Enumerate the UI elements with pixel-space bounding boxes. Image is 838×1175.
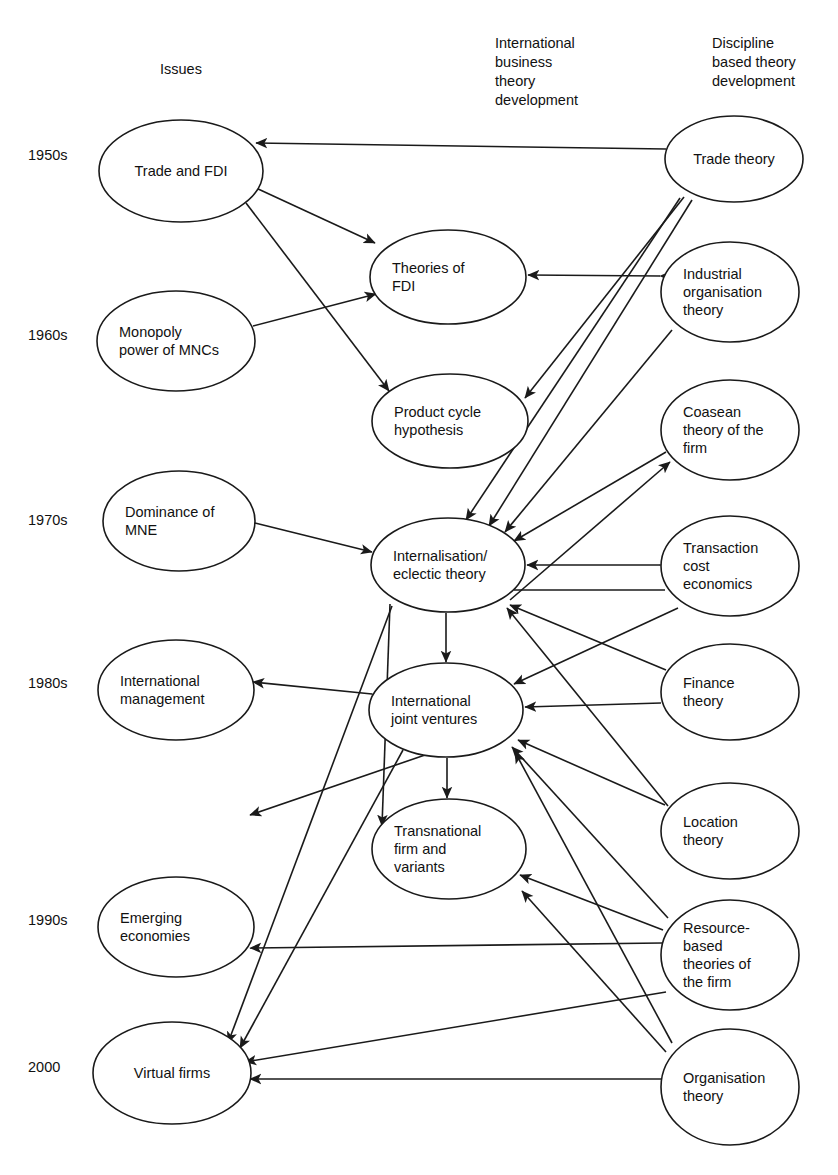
node-international-management[interactable]: Internationalmanagement (98, 640, 254, 740)
node-internalisation-eclectic-theory[interactable]: Internalisation/eclectic theory (371, 518, 525, 612)
node-emerging-economies[interactable]: Emergingeconomies (98, 877, 254, 977)
node-theories-of-fdi[interactable]: Theories ofFDI (370, 230, 526, 324)
edge-ijv-to-international-management-lower (250, 755, 425, 815)
node-shape-emerging-economies (98, 877, 254, 977)
node-shape-transaction-cost-economics (661, 516, 799, 616)
node-shape-international-management (98, 640, 254, 740)
node-label-transaction-cost-economics: economics (683, 576, 752, 592)
node-trade-and-fdi[interactable]: Trade and FDI (99, 120, 263, 222)
node-label-coasean-theory-of-the-firm: firm (683, 440, 707, 456)
node-label-virtual-firms: Virtual firms (134, 1065, 210, 1081)
node-label-emerging-economies: economies (120, 928, 190, 944)
era-label-2000: 2000 (28, 1059, 60, 1075)
edge-finance-theory-to-ijv (525, 703, 661, 707)
edge-monopoly-power-to-theories-of-fdi (253, 294, 376, 326)
node-label-transnational-firm-and-variants: Transnational (394, 823, 481, 839)
node-dominance-of-mne[interactable]: Dominance ofMNE (103, 471, 255, 571)
column-heading-discipline-theory: Discipline (712, 35, 774, 51)
edge-trade-theory-to-trade-and-fdi (256, 143, 666, 149)
node-label-dominance-of-mne: Dominance of (125, 504, 215, 520)
node-product-cycle-hypothesis[interactable]: Product cyclehypothesis (372, 374, 528, 468)
node-label-coasean-theory-of-the-firm: Coasean (683, 404, 741, 420)
node-transnational-firm-and-variants[interactable]: Transnationalfirm andvariants (372, 799, 526, 899)
era-axis: 1950s1960s1970s1980s1990s2000 (28, 147, 68, 1075)
node-international-joint-ventures[interactable]: Internationaljoint ventures (369, 663, 523, 757)
node-location-theory[interactable]: Locationtheory (661, 783, 799, 879)
node-label-international-joint-ventures: International (391, 693, 471, 709)
era-label-1980s: 1980s (28, 675, 68, 691)
node-shape-dominance-of-mne (103, 471, 255, 571)
column-heading-ib-theory: business (495, 54, 552, 70)
column-heading-ib-theory: International (495, 35, 575, 51)
node-label-transnational-firm-and-variants: variants (394, 859, 445, 875)
node-label-theories-of-fdi: Theories of (392, 260, 466, 276)
column-headings: IssuesInternationalbusinesstheorydevelop… (160, 35, 797, 108)
node-label-resource-based-theories-of-the-firm: the firm (683, 974, 731, 990)
node-label-industrial-organisation-theory: theory (683, 302, 724, 318)
node-label-product-cycle-hypothesis: Product cycle (394, 404, 481, 420)
node-label-international-management: International (120, 673, 200, 689)
column-heading-ib-theory: development (495, 92, 578, 108)
node-resource-based-theories-of-the-firm[interactable]: Resource-basedtheories ofthe firm (661, 900, 799, 1010)
node-label-industrial-organisation-theory: organisation (683, 284, 762, 300)
column-heading-issues: Issues (160, 61, 202, 77)
edge-industrial-organisation-to-theories-of-fdi (528, 275, 660, 276)
diagram-svg: Trade and FDIMonopolypower of MNCsDomina… (0, 0, 838, 1175)
node-label-theories-of-fdi: FDI (392, 278, 415, 294)
node-coasean-theory-of-the-firm[interactable]: Coaseantheory of thefirm (661, 380, 799, 480)
node-label-international-joint-ventures: joint ventures (390, 711, 477, 727)
node-shape-organisation-theory (661, 1029, 799, 1145)
node-shape-internalisation-eclectic-theory (371, 518, 525, 612)
node-label-trade-theory: Trade theory (693, 151, 775, 167)
node-organisation-theory[interactable]: Organisationtheory (661, 1029, 799, 1145)
diagram-canvas: Trade and FDIMonopolypower of MNCsDomina… (0, 0, 838, 1175)
node-virtual-firms[interactable]: Virtual firms (93, 1022, 251, 1124)
node-shape-theories-of-fdi (370, 230, 526, 324)
node-label-organisation-theory: theory (683, 1088, 724, 1104)
node-label-internalisation-eclectic-theory: Internalisation/ (393, 548, 488, 564)
node-label-resource-based-theories-of-the-firm: theories of (683, 956, 752, 972)
node-label-finance-theory: Finance (683, 675, 735, 691)
node-label-monopoly-power-of-mncs: Monopoly (119, 324, 183, 340)
edge-industrial-organisation-to-internalisation (505, 330, 672, 532)
edge-internalisation-to-virtual-firms (228, 606, 392, 1043)
node-label-transaction-cost-economics: Transaction (683, 540, 758, 556)
node-label-emerging-economies: Emerging (120, 910, 182, 926)
edge-internalisation-to-coasean (510, 462, 670, 600)
node-label-finance-theory: theory (683, 693, 724, 709)
edge-finance-theory-to-internalisation (510, 605, 666, 670)
node-transaction-cost-economics[interactable]: Transactioncosteconomics (661, 516, 799, 616)
node-shape-location-theory (661, 783, 799, 879)
node-shape-product-cycle-hypothesis (372, 374, 528, 468)
node-shape-finance-theory (661, 644, 799, 740)
node-monopoly-power-of-mncs[interactable]: Monopolypower of MNCs (97, 291, 255, 391)
node-label-location-theory: theory (683, 832, 724, 848)
node-industrial-organisation-theory[interactable]: Industrialorganisationtheory (661, 242, 799, 342)
node-label-monopoly-power-of-mncs: power of MNCs (119, 342, 219, 358)
edge-organisation-theory-to-transnational-firm (522, 891, 666, 1052)
edge-ijv-to-international-management (253, 682, 372, 694)
node-label-resource-based-theories-of-the-firm: Resource- (683, 920, 750, 936)
node-label-trade-and-fdi: Trade and FDI (135, 163, 228, 179)
era-label-1960s: 1960s (28, 327, 68, 343)
node-label-transaction-cost-economics: cost (683, 558, 710, 574)
column-heading-discipline-theory: based theory (712, 54, 797, 70)
node-label-location-theory: Location (683, 814, 738, 830)
edge-trade-and-fdi-to-theories-of-fdi (256, 188, 375, 243)
edge-trade-theory-to-internalisation-b (489, 200, 692, 526)
node-label-product-cycle-hypothesis: hypothesis (394, 422, 463, 438)
era-label-1950s: 1950s (28, 147, 68, 163)
nodes-layer: Trade and FDIMonopolypower of MNCsDomina… (93, 116, 803, 1145)
edge-location-theory-to-ijv (518, 740, 665, 805)
node-label-industrial-organisation-theory: Industrial (683, 266, 742, 282)
node-label-transnational-firm-and-variants: firm and (394, 841, 446, 857)
edge-coasean-to-internalisation (514, 452, 666, 541)
edge-dominance-of-mne-to-internalisation (255, 523, 372, 552)
column-heading-discipline-theory: development (712, 73, 795, 89)
node-shape-resource-based-theories-of-the-firm (661, 900, 799, 1010)
edge-resource-based-to-virtual-firms (245, 992, 666, 1062)
node-finance-theory[interactable]: Financetheory (661, 644, 799, 740)
node-label-internalisation-eclectic-theory: eclectic theory (393, 566, 486, 582)
node-trade-theory[interactable]: Trade theory (665, 116, 803, 202)
node-label-resource-based-theories-of-the-firm: based (683, 938, 723, 954)
